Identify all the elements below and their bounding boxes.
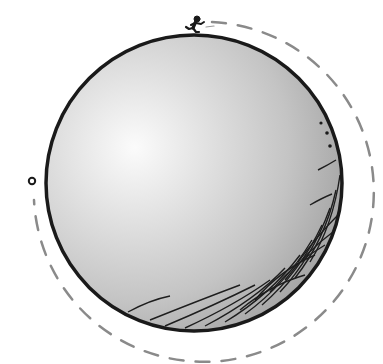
start-marker-ring xyxy=(29,178,35,184)
illustration-canvas: Figure running around a small spherical … xyxy=(0,0,383,364)
planet-illustration xyxy=(0,0,383,364)
sphere xyxy=(46,35,342,331)
runner-figure xyxy=(186,16,214,32)
